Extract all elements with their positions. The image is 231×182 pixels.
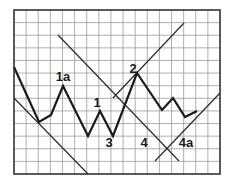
- label-3: 3: [105, 135, 112, 150]
- lower-right-ascending-trendline: [155, 93, 220, 161]
- label-4a: 4a: [179, 135, 194, 150]
- wave-diagram: 1a12344a: [0, 0, 231, 182]
- label-1: 1: [93, 95, 100, 110]
- label-2: 2: [129, 61, 136, 76]
- label-1a: 1a: [56, 69, 71, 84]
- label-4: 4: [140, 135, 148, 150]
